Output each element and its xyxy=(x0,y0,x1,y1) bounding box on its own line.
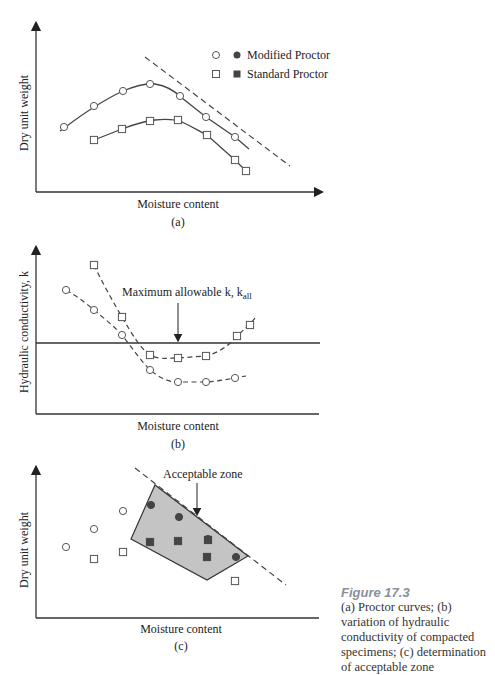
legend-open-circle-icon xyxy=(213,52,220,59)
square-data-point xyxy=(203,131,210,138)
panel-a-x-label: Moisture content xyxy=(137,197,219,211)
circle-data-point xyxy=(118,331,125,338)
open-circle-data-point xyxy=(90,525,97,532)
circle-data-point xyxy=(62,286,69,293)
square-data-point xyxy=(90,136,97,143)
circle-data-point xyxy=(90,102,97,109)
circle-data-point xyxy=(231,133,238,140)
filled-circle-data-point xyxy=(175,513,182,520)
square-data-point xyxy=(174,354,181,361)
panel-b-y-label: Hydraulic conductivity, k xyxy=(17,271,31,393)
panel-c-acceptable-zone: Dry unit weight Moisture content (c) Acc… xyxy=(17,467,319,653)
figure-caption-text: (a) Proctor curves; (b) variation of hyd… xyxy=(341,600,486,674)
open-square-data-point xyxy=(119,548,126,555)
panel-c-y-label: Dry unit weight xyxy=(17,511,31,588)
circle-data-point xyxy=(146,366,153,373)
open-square-data-point xyxy=(90,555,97,562)
square-data-point xyxy=(118,125,125,132)
modified-proctor-k-curve xyxy=(66,290,246,382)
legend-open-square-icon xyxy=(213,71,220,78)
square-data-point xyxy=(231,156,238,163)
standard-proctor-curve xyxy=(94,119,246,171)
circle-data-point xyxy=(90,306,97,313)
legend-standard-proctor: Standard Proctor xyxy=(247,67,328,81)
filled-square-data-point xyxy=(174,537,181,544)
square-data-point xyxy=(246,321,253,328)
open-circle-data-point xyxy=(119,507,126,514)
square-data-point xyxy=(242,167,249,174)
square-data-point xyxy=(146,351,153,358)
filled-circle-data-point xyxy=(147,501,154,508)
panel-b-markers xyxy=(62,261,253,385)
panel-c-panel-label: (c) xyxy=(174,639,187,653)
panel-a-proctor-curves: Dry unit weight Moisture content (a) Mod… xyxy=(17,26,330,229)
square-data-point xyxy=(174,116,181,123)
circle-data-point xyxy=(202,113,209,120)
square-data-point xyxy=(233,332,240,339)
square-data-point xyxy=(202,352,209,359)
circle-data-point xyxy=(146,80,153,87)
filled-square-data-point xyxy=(204,536,211,543)
legend-modified-proctor: Modified Proctor xyxy=(247,48,330,62)
filled-square-data-point xyxy=(203,553,210,560)
panel-c-x-label: Moisture content xyxy=(140,622,222,636)
square-data-point xyxy=(90,261,97,268)
panel-a-legend: Modified Proctor Standard Proctor xyxy=(213,48,331,81)
circle-data-point xyxy=(176,92,183,99)
panel-b-x-label: Moisture content xyxy=(137,419,219,433)
acceptable-zone-polygon xyxy=(131,485,248,580)
circle-data-point xyxy=(202,378,209,385)
circle-data-point xyxy=(60,123,67,130)
legend-filled-square-icon xyxy=(234,71,241,78)
figure-number: Figure 17.3 xyxy=(341,585,495,600)
circle-data-point xyxy=(174,378,181,385)
panel-a-y-label: Dry unit weight xyxy=(17,74,31,151)
max-allowable-k-annotation: Maximum allowable k, kall xyxy=(122,285,252,301)
modified-proctor-curve xyxy=(60,84,249,149)
square-data-point xyxy=(118,313,125,320)
figure-caption: Figure 17.3 (a) Proctor curves; (b) vari… xyxy=(341,585,495,675)
open-circle-data-point xyxy=(62,543,69,550)
square-data-point xyxy=(146,117,153,124)
filled-circle-data-point xyxy=(232,553,239,560)
circle-data-point xyxy=(119,87,126,94)
circle-data-point xyxy=(231,374,238,381)
filled-square-data-point xyxy=(146,538,153,545)
legend-filled-circle-icon xyxy=(234,52,241,59)
panel-a-panel-label: (a) xyxy=(171,215,184,229)
acceptable-zone-annotation: Acceptable zone xyxy=(163,467,243,481)
standard-proctor-k-curve xyxy=(94,265,255,358)
panel-b-hydraulic-conductivity: Hydraulic conductivity, k Moisture conte… xyxy=(17,250,320,451)
open-square-data-point xyxy=(231,577,238,584)
panel-b-panel-label: (b) xyxy=(171,437,185,451)
